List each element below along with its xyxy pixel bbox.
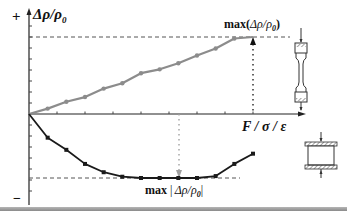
- lower-data-point: [232, 162, 236, 166]
- upper-data-point: [83, 95, 87, 99]
- upper-data-point: [232, 36, 236, 40]
- x-axis-arrow-icon: [298, 112, 306, 117]
- lower-curve-compression: [29, 114, 253, 178]
- lower-data-point: [176, 176, 180, 180]
- upper-data-point: [64, 99, 68, 103]
- lower-data-point: [139, 176, 143, 180]
- y-axis-label-subscript: 0: [62, 15, 67, 25]
- y-axis-label-main: Δρ/ρ: [33, 6, 62, 22]
- lower-data-point: [83, 162, 87, 166]
- min-annotation-prefix: max: [145, 183, 167, 197]
- lower-data-point: [158, 176, 162, 180]
- upper-data-point: [120, 81, 124, 85]
- lower-data-point: [120, 175, 124, 179]
- upper-data-point: [195, 53, 199, 57]
- negative-sign-label: −: [13, 192, 21, 206]
- upper-data-point: [45, 106, 49, 110]
- lower-data-point: [46, 136, 50, 140]
- min-annotation-label: max | Δρ/ρ0|: [145, 184, 203, 199]
- y-axis: [27, 8, 33, 205]
- min-annotation-body: Δρ/ρ: [175, 183, 197, 197]
- lower-data-point: [251, 152, 255, 156]
- y-axis-arrow-icon: [27, 8, 32, 15]
- x-axis: [29, 112, 306, 117]
- upper-curve-tension: [29, 37, 253, 114]
- lower-data-point: [64, 148, 68, 152]
- positive-sign-label: +: [12, 9, 21, 24]
- chart-canvas: [0, 0, 347, 212]
- max-annotation-suffix: ): [276, 17, 280, 31]
- lower-data-point: [214, 174, 218, 178]
- max-annotation-prefix: max(: [224, 17, 250, 31]
- lower-data-point: [102, 170, 106, 174]
- upper-data-point: [213, 46, 217, 50]
- compression-specimen-icon: [305, 132, 337, 178]
- max-annotation-body: Δρ/ρ: [250, 17, 272, 31]
- tension-specimen-icon: [295, 28, 307, 111]
- y-axis-label: Δρ/ρ0: [33, 7, 67, 25]
- x-axis-label: F / σ / ε: [242, 120, 286, 134]
- upper-data-point: [139, 71, 143, 75]
- lower-data-point: [195, 176, 199, 180]
- max-annotation-label: max(Δρ/ρ0): [224, 18, 280, 33]
- upper-data-point: [157, 67, 161, 71]
- upper-data-point: [176, 61, 180, 65]
- upper-data-point: [101, 86, 105, 90]
- bottom-divider: [0, 207, 347, 211]
